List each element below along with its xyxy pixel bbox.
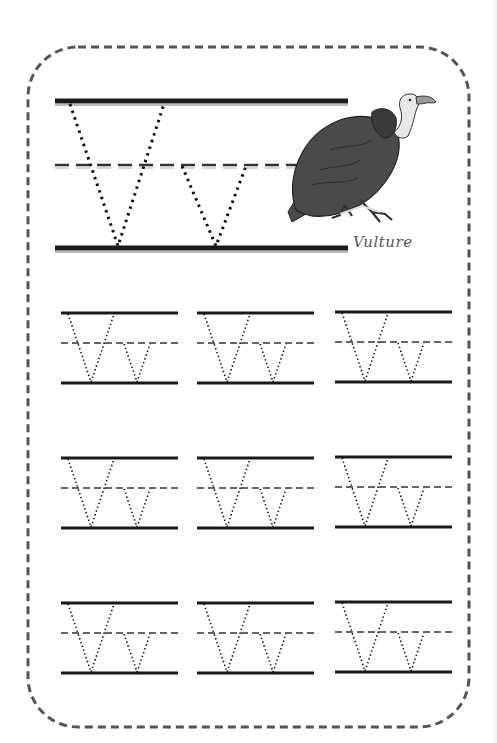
practice-row-2 [61,457,452,528]
practice-cell [61,603,178,673]
worksheet-canvas [0,0,497,743]
practice-row-3 [61,602,452,673]
practice-cell [335,457,452,527]
practice-cell [197,458,314,528]
animal-label: Vulture [353,233,413,251]
practice-cell [61,313,178,383]
practice-cell [61,458,178,528]
practice-row-1 [61,312,452,383]
vulture-icon [288,94,436,222]
practice-cell [335,602,452,672]
lowercase-v-trace [182,166,246,246]
practice-cell [197,313,314,383]
practice-cell [335,312,452,382]
dashed-border [28,47,469,727]
uppercase-v-trace [70,104,164,246]
practice-cell [197,603,314,673]
